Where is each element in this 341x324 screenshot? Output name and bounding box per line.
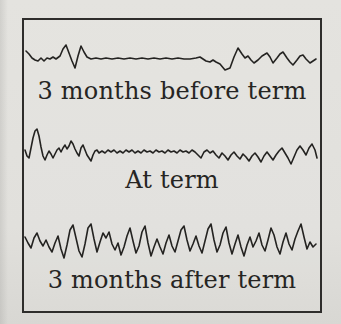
label-at-term: At term — [22, 167, 322, 193]
label-3-months-before-term: 3 months before term — [22, 78, 322, 104]
figure-canvas: 3 months before term At term 3 months af… — [0, 0, 341, 324]
label-3-months-after-term: 3 months after term — [22, 267, 322, 293]
